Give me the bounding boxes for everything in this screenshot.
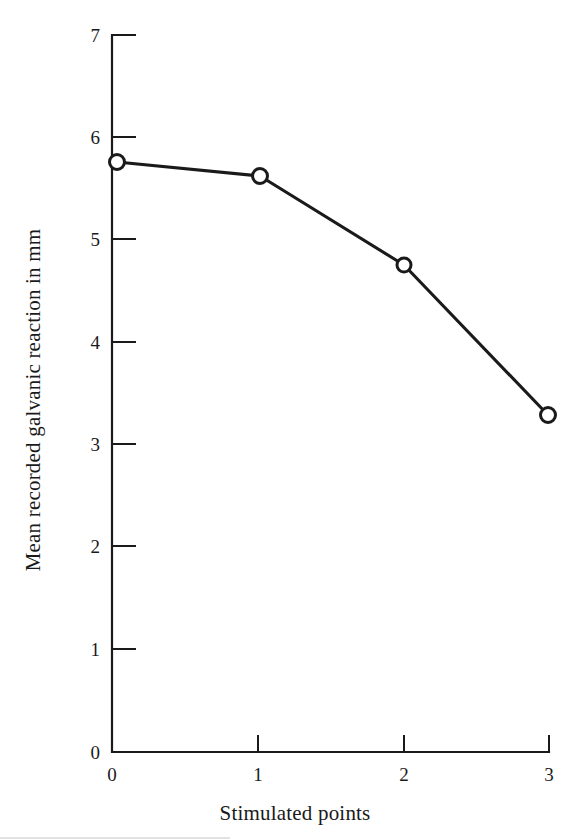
- y-tick-label-0: 0: [91, 742, 101, 763]
- y-tick-label-7: 7: [91, 25, 101, 46]
- data-point-1[interactable]: [253, 169, 268, 184]
- y-tick-label-2: 2: [91, 536, 101, 557]
- data-point-2[interactable]: [397, 258, 411, 272]
- x-tick-label-0: 0: [107, 764, 117, 785]
- y-axis-tick-labels: 7 6 5 4 3 2 1 0: [91, 25, 101, 763]
- data-point-0[interactable]: [110, 155, 125, 170]
- data-markers: [110, 155, 556, 423]
- data-point-3[interactable]: [541, 408, 556, 423]
- y-tick-label-4: 4: [91, 332, 101, 353]
- x-axis-title: Stimulated points: [220, 801, 371, 825]
- y-axis-ticks: [112, 35, 136, 649]
- x-axis-ticks: [112, 735, 549, 752]
- y-tick-label-3: 3: [91, 434, 101, 455]
- x-tick-label-1: 1: [253, 764, 263, 785]
- chart-figure: 7 6 5 4 3 2 1 0 0 1 2 3: [0, 0, 579, 840]
- x-axis-tick-labels: 0 1 2 3: [107, 764, 554, 785]
- line-chart: 7 6 5 4 3 2 1 0 0 1 2 3: [0, 0, 579, 840]
- y-axis-title: Mean recorded galvanic reaction in mm: [21, 229, 45, 572]
- y-tick-label-6: 6: [91, 127, 101, 148]
- y-tick-label-5: 5: [91, 229, 101, 250]
- axis-lines: [112, 35, 549, 752]
- x-tick-label-2: 2: [399, 764, 409, 785]
- data-series-line: [117, 162, 548, 415]
- y-tick-label-1: 1: [91, 639, 101, 660]
- x-tick-label-3: 3: [544, 764, 554, 785]
